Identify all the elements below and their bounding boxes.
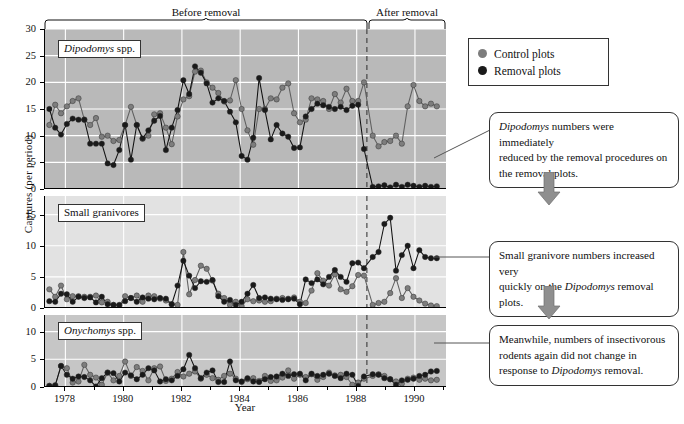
x-tick-label: 1988: [345, 393, 366, 404]
panel-label-dipodomys-genus: Dipodomys: [64, 42, 114, 54]
y-tick-mark: [40, 359, 44, 360]
y-tick-mark: [40, 162, 44, 163]
x-tick-mark: [356, 387, 357, 391]
panel-label-dipodomys-rest: spp.: [114, 42, 135, 54]
x-tick-mark-minor: [268, 387, 269, 390]
legend: Control plots Removal plots: [468, 38, 609, 86]
callout-granivores: Small granivore numbers increased very q…: [489, 241, 679, 317]
leader-line-granivores: [434, 254, 492, 260]
y-tick-label: 30: [10, 24, 36, 35]
y-tick-label: 5: [10, 272, 36, 283]
figure-root: Captures (per period) Before removal Aft…: [0, 0, 684, 424]
removal-dot-icon: [478, 66, 487, 75]
callout-onychomys-genus: Dipodomys: [552, 364, 602, 376]
x-tick-mark-minor: [152, 387, 153, 390]
callout-granivores-line2: quickly on the Dipodomys removal plots.: [499, 279, 669, 310]
y-tick-label: 15: [10, 209, 36, 220]
callout-granivores-genus: Dipodomys: [565, 280, 615, 292]
legend-item-removal: Removal plots: [478, 62, 596, 79]
callout-onychomys-line3-a: response to: [499, 364, 552, 376]
x-tick-mark-minor: [94, 387, 95, 390]
y-tick-label: 10: [10, 326, 36, 337]
x-tick-mark-minor: [210, 387, 211, 390]
y-tick-mark: [40, 215, 44, 216]
leader-line-dipodomys: [432, 128, 492, 160]
y-tick-mark: [40, 109, 44, 110]
y-axis-ticks-top: 051015202530: [0, 29, 44, 189]
y-tick-label: 0: [10, 184, 36, 195]
y-tick-label: 5: [10, 157, 36, 168]
y-axis-ticks-mid: 051015: [0, 196, 44, 308]
panel-label-onychomys-rest: spp.: [115, 324, 136, 336]
flow-arrow-down-1: [537, 172, 561, 206]
panel-label-granivores-text: Small granivores: [64, 206, 139, 218]
x-tick-label: 1978: [54, 393, 75, 404]
y-tick-label: 25: [10, 50, 36, 61]
x-tick-mark: [239, 387, 240, 391]
y-tick-mark: [40, 56, 44, 57]
y-tick-label: 10: [10, 130, 36, 141]
y-tick-label: 0: [10, 303, 36, 314]
legend-label-control: Control plots: [494, 48, 554, 60]
y-tick-label: 10: [10, 241, 36, 252]
y-tick-mark: [40, 246, 44, 247]
callout-dipodomys: Dipodomys numbers were immediately reduc…: [489, 112, 679, 188]
callout-dipodomys-line1: Dipodomys numbers were immediately: [499, 119, 669, 150]
callout-dipodomys-line3: the removal plots.: [499, 166, 669, 182]
callout-granivores-line1: Small granivore numbers increased very: [499, 248, 669, 279]
x-tick-mark: [297, 387, 298, 391]
leader-line-onychomys: [434, 340, 492, 346]
callout-dipodomys-genus: Dipodomys: [499, 120, 549, 132]
callout-onychomys-line2: rodents again did not change in: [499, 348, 669, 364]
y-tick-mark: [40, 277, 44, 278]
y-tick-label: 15: [10, 104, 36, 115]
y-tick-mark: [40, 29, 44, 30]
callout-onychomys-line3: response to Dipodomys removal.: [499, 363, 669, 379]
x-tick-mark: [181, 387, 182, 391]
x-tick-label: 1990: [403, 393, 424, 404]
x-tick-label: 1980: [112, 393, 133, 404]
y-tick-mark: [40, 189, 44, 190]
x-tick-label: 1986: [287, 393, 308, 404]
y-tick-label: 20: [10, 77, 36, 88]
x-axis-title: Year: [235, 401, 255, 413]
x-tick-mark: [64, 387, 65, 391]
y-tick-label: 5: [10, 354, 36, 365]
x-tick-mark-minor: [385, 387, 386, 390]
y-tick-mark: [40, 308, 44, 309]
x-tick-mark: [414, 387, 415, 391]
x-tick-mark-minor: [443, 387, 444, 390]
legend-label-removal: Removal plots: [494, 65, 561, 77]
control-dot-icon: [478, 49, 487, 58]
panel-label-dipodomys: Dipodomys spp.: [58, 40, 141, 58]
x-tick-label: 1982: [170, 393, 191, 404]
x-tick-mark: [123, 387, 124, 391]
bracket-label-after: After removal: [376, 6, 438, 18]
y-tick-mark: [40, 82, 44, 83]
callout-onychomys: Meanwhile, numbers of insectivorous rode…: [489, 325, 679, 386]
bracket-label-before: Before removal: [172, 6, 241, 18]
callout-onychomys-line3-c: removal.: [602, 364, 644, 376]
legend-item-control: Control plots: [478, 45, 596, 62]
y-tick-mark: [40, 136, 44, 137]
panel-label-onychomys-genus: Onychomys: [64, 324, 115, 336]
x-tick-mark-minor: [327, 387, 328, 390]
panel-label-onychomys: Onychomys spp.: [58, 322, 142, 340]
flow-arrow-down-2: [537, 286, 561, 320]
y-tick-mark: [40, 332, 44, 333]
y-axis-ticks-bot: 0510: [0, 315, 44, 387]
y-tick-label: 0: [10, 382, 36, 393]
panel-label-granivores: Small granivores: [58, 204, 145, 222]
callout-onychomys-line1: Meanwhile, numbers of insectivorous: [499, 332, 669, 348]
callout-dipodomys-line2: reduced by the removal procedures on: [499, 150, 669, 166]
